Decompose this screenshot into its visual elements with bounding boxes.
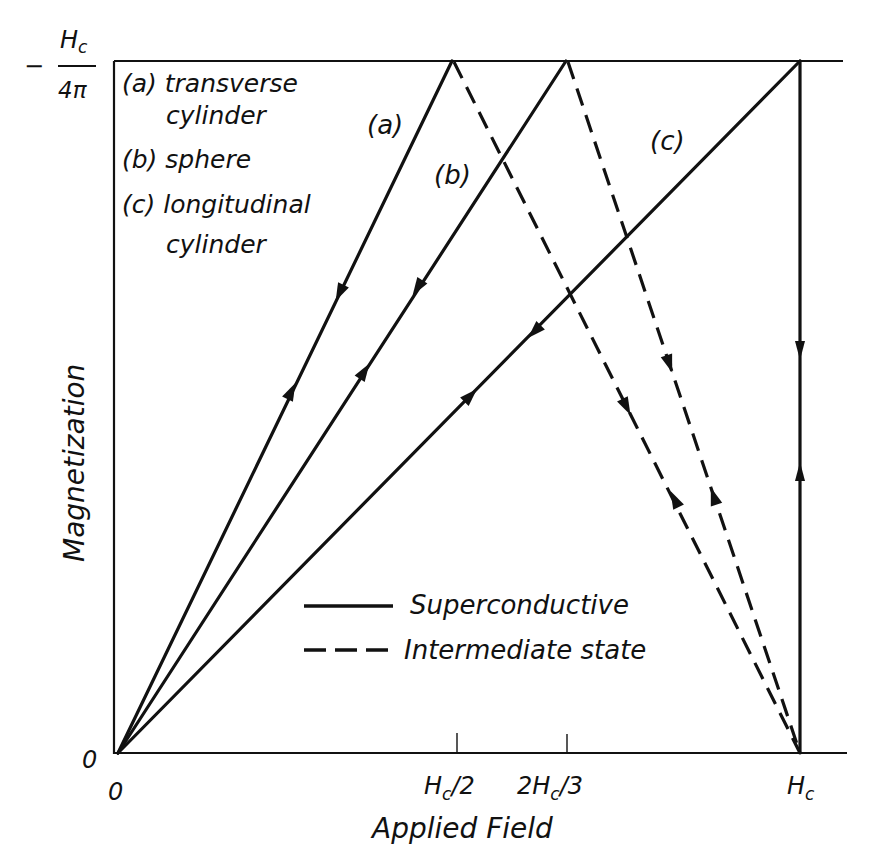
x-tick-label-two-thirds: 2Hc/3 [517,772,583,804]
arrow-down-icon [617,396,636,417]
legend-dashed-label: Intermediate state [404,635,646,665]
arrow-up-icon [795,462,805,481]
svg-text:(a) transverse: (a) transverse [122,69,298,98]
curve-label-a: (a) [367,110,403,140]
y-zero-label: 0 [82,746,97,774]
curve-key: (a) transverse cylinder (b) sphere (c) l… [122,69,311,259]
x-axis-title: Applied Field [370,812,553,845]
x-tick-label-half: Hc/2 [424,772,475,804]
svg-text:4π: 4π [58,77,88,103]
svg-text:(b) sphere: (b) sphere [122,145,251,174]
y-axis-title: Magnetization [58,364,91,562]
svg-text:−: − [24,52,44,80]
arrow-down-icon [795,341,805,360]
curve-label-c: (c) [650,126,685,156]
svg-text:cylinder: cylinder [166,230,268,259]
svg-text:Hc: Hc [60,26,88,57]
svg-text:(c) longitudinal: (c) longitudinal [122,190,311,219]
y-top-label: − Hc 4π [24,26,96,103]
curve-label-b: (b) [434,160,471,190]
arrows [282,277,805,510]
arrow-up-icon [705,486,722,507]
x-zero-label: 0 [108,778,123,806]
x-tick-label-hc: Hc [787,772,815,804]
svg-text:cylinder: cylinder [166,101,268,130]
arrow-down-icon [330,282,349,303]
magnetization-chart: − Hc 4π 0 0 Hc/2 2Hc/3 Hc Applied Field … [0,0,875,856]
legend-solid-label: Superconductive [410,590,629,620]
arrow-down-icon [661,354,678,375]
legend: Superconductive Intermediate state [304,590,646,665]
